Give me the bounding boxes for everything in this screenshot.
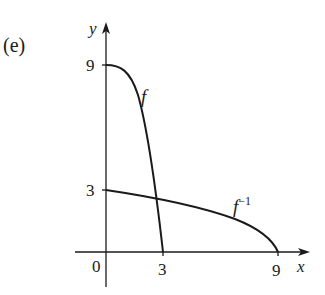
- y-tick-label-3: 3: [86, 181, 95, 200]
- y-tick-label-9: 9: [86, 56, 95, 75]
- x-axis-label: x: [296, 257, 305, 276]
- curve-f-inverse-label-sup: −1: [238, 194, 251, 208]
- axes: [75, 30, 304, 287]
- curve-f-inverse: [106, 190, 278, 252]
- curve-f-label: f: [141, 86, 149, 107]
- x-tick-label-3: 3: [158, 260, 167, 279]
- origin-label: 0: [92, 257, 101, 276]
- curve-f: [106, 65, 163, 252]
- y-axis-label: y: [87, 19, 97, 38]
- graph: 9 3 0 3 9 x y f f−1: [0, 0, 325, 295]
- x-tick-label-9: 9: [272, 261, 281, 280]
- curve-f-inverse-label: f−1: [233, 194, 251, 217]
